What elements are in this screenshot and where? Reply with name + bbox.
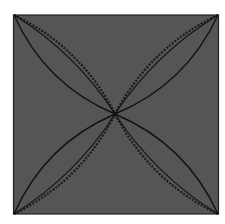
diagram-canvas: [0, 0, 225, 224]
center-point: [113, 112, 117, 116]
